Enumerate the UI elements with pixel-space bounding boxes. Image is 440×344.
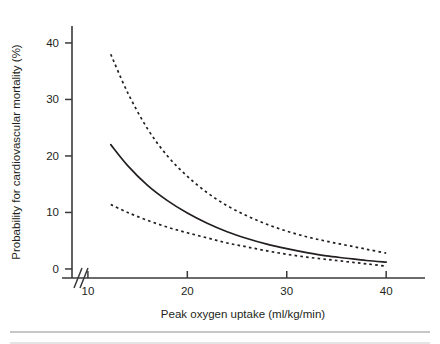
y-tick-label: 40	[46, 37, 59, 49]
x-tick-label: 10	[82, 285, 95, 297]
x-axis-title: Peak oxygen uptake (ml/kg/min)	[161, 308, 325, 320]
y-tick-label: 30	[46, 93, 59, 105]
y-tick-label: 10	[46, 206, 59, 218]
y-axis-ticks: 010203040	[46, 37, 72, 275]
y-axis-title: Probability for cardiovascular mortality…	[10, 44, 22, 260]
x-tick-label: 20	[181, 285, 194, 297]
x-tick-label: 40	[380, 285, 393, 297]
plot-axes	[62, 26, 425, 288]
confidence-limit-curve	[111, 54, 386, 253]
y-tick-label: 20	[46, 150, 59, 162]
x-axis-ticks: 10203040	[82, 271, 393, 297]
cardiovascular-mortality-chart: 010203040 10203040 Peak oxygen uptake (m…	[0, 0, 440, 344]
data-series-group	[111, 54, 386, 266]
confidence-limit-curve	[111, 205, 386, 267]
figure-root: 010203040 10203040 Peak oxygen uptake (m…	[0, 0, 440, 344]
y-tick-label: 0	[53, 263, 59, 275]
x-tick-label: 30	[280, 285, 293, 297]
